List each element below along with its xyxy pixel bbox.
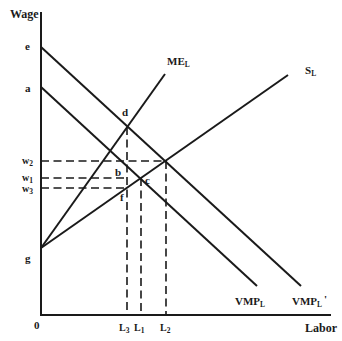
point-label-c: c — [145, 174, 150, 186]
vmp-prime-curve-label: VMPL' — [292, 293, 327, 309]
monopsony-labor-market-diagram: Wage Labor 0 MEL SL VMPL VMPL' e a g w2 — [0, 0, 342, 341]
vmp-curve-label: VMPL — [235, 295, 265, 309]
labor-label-l3: L3 — [119, 322, 130, 335]
vmp-curve — [41, 87, 257, 286]
x-axis-label: Labor — [305, 321, 338, 335]
point-label-d: d — [122, 106, 128, 118]
supply-curve — [41, 75, 288, 248]
wage-label-w3: w3 — [22, 183, 33, 196]
wage-label-w2: w2 — [22, 155, 33, 168]
intercept-label-a: a — [25, 82, 31, 94]
vmp-prime-curve — [41, 47, 301, 286]
intercept-label-g: g — [25, 252, 31, 264]
origin-label: 0 — [34, 319, 40, 331]
curves — [41, 47, 301, 286]
point-label-f: f — [120, 191, 124, 203]
supply-curve-label: SL — [305, 64, 316, 78]
point-label-b: b — [115, 166, 121, 178]
labor-label-l2: L2 — [160, 322, 171, 335]
intercept-label-e: e — [25, 40, 30, 52]
me-curve-label: MEL — [167, 55, 190, 69]
y-axis-label: Wage — [10, 7, 39, 21]
labor-label-l1: L1 — [134, 322, 145, 335]
